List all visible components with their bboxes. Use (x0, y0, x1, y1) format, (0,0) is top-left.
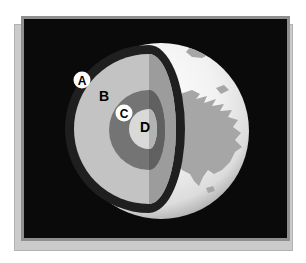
earth-layers-diagram: A B C D (0, 0, 306, 263)
label-d: D (140, 119, 150, 135)
page-background: { "figure": { "description": "Cutaway di… (0, 0, 306, 263)
label-a: A (78, 74, 87, 88)
label-c: C (120, 107, 129, 121)
label-b: B (99, 88, 109, 104)
